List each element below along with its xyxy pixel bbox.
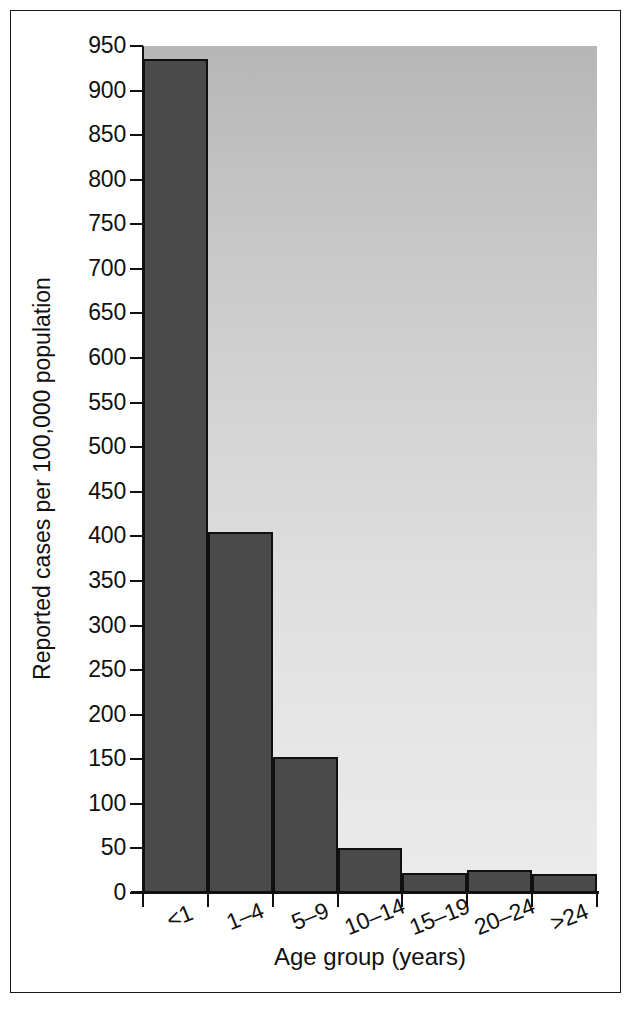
y-axis-tick-label-text: 0: [6, 881, 126, 904]
x-axis-tick-label: >24: [547, 898, 592, 935]
y-axis-tick-label: 800: [0, 168, 126, 191]
x-axis-tick: [596, 893, 598, 907]
y-axis-tick-label-text: 850: [6, 123, 126, 146]
bar: [273, 757, 338, 893]
y-axis-tick: [130, 535, 143, 537]
y-axis-tick: [130, 625, 143, 627]
y-axis-tick-label: 700: [0, 257, 126, 280]
x-axis-tick-label: 1–4: [223, 898, 267, 935]
y-axis-tick-label: 950: [0, 34, 126, 57]
y-axis-tick-label-text: 300: [6, 614, 126, 637]
y-axis-tick-label: 0: [0, 881, 126, 904]
y-axis-tick-label: 250: [0, 658, 126, 681]
y-axis-tick-label: 50: [0, 836, 126, 859]
y-axis-tick-label: 500: [0, 435, 126, 458]
bar: [532, 874, 597, 893]
y-axis-tick-label-text: 750: [6, 212, 126, 235]
bar: [208, 532, 273, 893]
y-axis-tick-label: 400: [0, 524, 126, 547]
y-axis-tick: [130, 134, 143, 136]
x-axis-tick: [142, 893, 144, 907]
x-axis-tick: [272, 893, 274, 907]
y-axis-tick-label-text: 450: [6, 480, 126, 503]
y-axis-tick-label-text: 950: [6, 34, 126, 57]
y-axis-tick: [130, 580, 143, 582]
y-axis-tick-label: 150: [0, 747, 126, 770]
x-axis-tick-label: 5–9: [288, 898, 332, 935]
y-axis-tick-label-text: 200: [6, 703, 126, 726]
y-axis-tick: [130, 847, 143, 849]
y-axis-tick-label-text: 400: [6, 524, 126, 547]
y-axis-tick: [130, 669, 143, 671]
y-axis-tick-label: 650: [0, 301, 126, 324]
bar: [143, 59, 208, 893]
y-axis-tick: [130, 803, 143, 805]
x-axis-tick-label: 20–24: [471, 894, 538, 941]
x-axis-tick-label: <1: [163, 901, 196, 934]
y-axis-tick-label-text: 650: [6, 301, 126, 324]
y-axis-tick: [130, 402, 143, 404]
y-axis-tick-label: 600: [0, 346, 126, 369]
x-axis-tick: [207, 893, 209, 907]
y-axis-title: Reported cases per 100,000 population: [30, 244, 55, 714]
y-axis-tick: [130, 312, 143, 314]
y-axis-tick-label-text: 150: [6, 747, 126, 770]
y-axis-tick: [130, 714, 143, 716]
y-axis-tick: [130, 223, 143, 225]
y-axis-tick: [130, 446, 143, 448]
y-axis-tick-label-text: 550: [6, 391, 126, 414]
y-axis-tick: [130, 758, 143, 760]
y-axis-tick-label-text: 100: [6, 792, 126, 815]
x-axis-tick: [337, 893, 339, 907]
y-axis-tick-label-text: 600: [6, 346, 126, 369]
y-axis-tick-label: 900: [0, 79, 126, 102]
y-axis-tick-label: 750: [0, 212, 126, 235]
bar: [402, 873, 467, 893]
y-axis-tick: [130, 179, 143, 181]
y-axis-tick-label-text: 500: [6, 435, 126, 458]
x-axis-title: Age group (years): [143, 944, 597, 970]
y-axis-tick-label: 350: [0, 569, 126, 592]
y-axis-tick-label: 300: [0, 614, 126, 637]
x-axis-tick-label: 10–14: [341, 894, 408, 941]
y-axis-tick: [130, 90, 143, 92]
bar: [467, 870, 532, 893]
bar-chart: 0501001502002503003504004505005506006507…: [0, 0, 633, 1014]
y-axis-tick-label: 850: [0, 123, 126, 146]
y-axis-tick: [130, 45, 143, 47]
y-axis-tick-label: 550: [0, 391, 126, 414]
y-axis-tick-label-text: 350: [6, 569, 126, 592]
y-axis-tick-label-text: 900: [6, 79, 126, 102]
y-axis-tick-label: 450: [0, 480, 126, 503]
y-axis-tick-label-text: 250: [6, 658, 126, 681]
y-axis-tick: [130, 491, 143, 493]
y-axis-tick: [130, 268, 143, 270]
bar: [338, 848, 403, 893]
y-axis-tick-label-text: 50: [6, 836, 126, 859]
y-axis-tick-label-text: 800: [6, 168, 126, 191]
y-axis-tick-label: 100: [0, 792, 126, 815]
x-axis-tick-label: 15–19: [406, 894, 473, 941]
y-axis-tick-label: 200: [0, 703, 126, 726]
y-axis-tick: [130, 357, 143, 359]
y-axis-tick-label-text: 700: [6, 257, 126, 280]
